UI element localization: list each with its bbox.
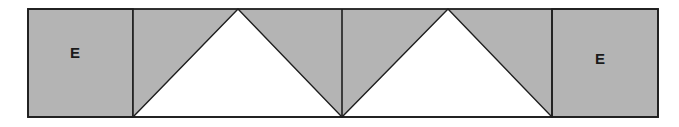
flying-geese-unit-1 — [133, 9, 342, 117]
right-square-block: E — [552, 9, 658, 117]
right-square-label: E — [595, 50, 605, 67]
left-square-label: E — [70, 44, 80, 61]
left-square-block: E — [28, 9, 133, 117]
flying-geese-unit-2 — [342, 9, 552, 117]
quilt-strip-diagram: E E — [0, 0, 679, 127]
